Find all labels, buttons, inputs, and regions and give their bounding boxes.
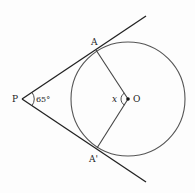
tangent-circle-diagram: P A O A' 65° x xyxy=(0,0,195,193)
label-angle-P: 65° xyxy=(36,95,50,104)
radius-OA xyxy=(96,50,128,99)
radius-OA-prime xyxy=(97,99,128,148)
label-A: A xyxy=(90,37,98,47)
label-O: O xyxy=(133,94,140,104)
angle-arc-O xyxy=(121,93,124,105)
tangent-line-upper xyxy=(22,16,146,99)
angle-arc-P xyxy=(32,92,34,105)
center-point-O xyxy=(126,97,130,101)
label-angle-x: x xyxy=(112,94,117,104)
label-A-prime: A' xyxy=(88,154,98,164)
tangent-line-lower xyxy=(22,99,146,182)
label-P: P xyxy=(12,94,18,104)
